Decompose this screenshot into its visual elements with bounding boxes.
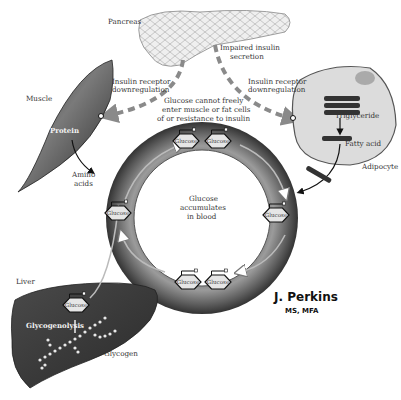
diagram-canvas: GlucoseGlucoseGlucoseGlucoseGlucoseGluco… [0, 0, 401, 400]
pancreas [139, 10, 290, 66]
glucose-oxygen [225, 269, 228, 272]
insulin-receptor-muscle [99, 114, 104, 119]
glucose-oxygen [283, 202, 286, 205]
label-receptor-right-2: downregulation [248, 85, 306, 94]
label-fatty-acid: Fatty acid [345, 139, 382, 148]
glucose-label: Glucose [265, 212, 288, 218]
label-center-2: accumulates [180, 203, 226, 212]
label-triglyceride: Triglyceride [335, 111, 379, 120]
glucose-oxygen [225, 128, 228, 131]
glucose-label: Glucose [175, 138, 198, 144]
insulin-receptor-fat [291, 116, 296, 121]
label-protein: Protein [50, 126, 79, 135]
label-amino-1: Amino [71, 170, 95, 179]
label-center-3: in blood [187, 212, 217, 221]
label-liver: Liver [16, 277, 35, 286]
label-impaired-2: secretion [230, 52, 264, 61]
label-cannot-2: enter muscle or fat cells [162, 105, 251, 114]
label-amino-2: acids [74, 179, 93, 188]
label-cannot-1: Glucose cannot freely [164, 96, 244, 105]
glucose-label: Glucose [65, 302, 88, 308]
glucose-label: Glucose [207, 279, 230, 285]
glucose-oxygen [83, 292, 86, 295]
glucose-label: Glucose [107, 210, 130, 216]
label-center-1: Glucose [189, 194, 218, 203]
glucose-oxygen [125, 200, 128, 203]
label-adipocyte: Adipocyte [361, 162, 398, 171]
label-cannot-3: of or resistance to insulin [157, 114, 250, 123]
label-glycogenolysis: Glycogenolysis [26, 321, 84, 330]
label-muscle: Muscle [26, 94, 52, 103]
glucose-label: Glucose [177, 279, 200, 285]
credit-name: J. Perkins [273, 290, 338, 304]
label-glycogen: Glycogen [104, 349, 138, 358]
label-receptor-left-2: downregulation [112, 85, 170, 94]
glucose-oxygen [195, 269, 198, 272]
glucose-label: Glucose [207, 138, 230, 144]
glucose-oxygen [193, 128, 196, 131]
label-impaired-1: Impaired insulin [220, 43, 280, 52]
label-pancreas: Pancreas [108, 17, 141, 26]
credit-degrees: MS, MFA [285, 307, 319, 315]
